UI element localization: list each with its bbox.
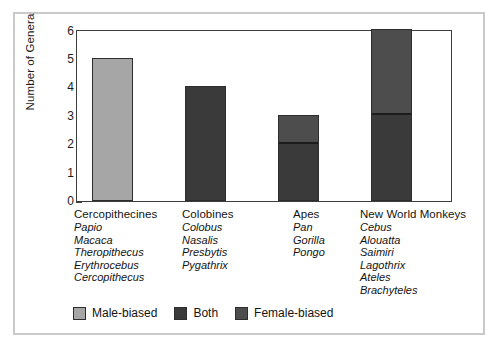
legend-swatch-male-biased bbox=[73, 307, 86, 320]
bar-apes[interactable] bbox=[278, 115, 319, 201]
bar-colobines[interactable] bbox=[185, 86, 226, 201]
bar-new-world-monkeys[interactable] bbox=[371, 29, 412, 201]
bar-segment-female-biased bbox=[279, 115, 318, 143]
genus-item: Pongo bbox=[293, 246, 325, 259]
genus-item: Colobus bbox=[182, 221, 234, 234]
genus-item: Cebus bbox=[360, 221, 466, 234]
legend: Male-biased Both Female-biased bbox=[73, 306, 350, 320]
bar-segment-divider bbox=[372, 113, 411, 115]
genus-item: Gorilla bbox=[293, 234, 325, 247]
y-tick-mark bbox=[76, 202, 82, 203]
bar-segment-female-biased bbox=[372, 29, 411, 114]
category-group-colobines: Colobines Colobus Nasalis Presbytis Pyga… bbox=[182, 208, 234, 271]
genus-item: Pan bbox=[293, 221, 325, 234]
y-tick-label: 0 bbox=[34, 194, 74, 208]
legend-swatch-female-biased bbox=[235, 307, 248, 320]
bar-segment-both bbox=[372, 114, 411, 200]
legend-item-female-biased[interactable]: Female-biased bbox=[235, 306, 333, 320]
legend-item-male-biased[interactable]: Male-biased bbox=[73, 306, 157, 320]
y-tick-label: 5 bbox=[34, 52, 74, 66]
genus-item: Cercopithecus bbox=[74, 271, 157, 284]
genus-item: Saimiri bbox=[360, 246, 466, 259]
genus-item: Erythrocebus bbox=[74, 259, 157, 272]
genus-item: Ateles bbox=[360, 271, 466, 284]
genus-item: Papio bbox=[74, 221, 157, 234]
legend-item-both[interactable]: Both bbox=[174, 306, 218, 320]
y-tick-label: 1 bbox=[34, 166, 74, 180]
genus-item: Theropithecus bbox=[74, 246, 157, 259]
category-group-apes: Apes Pan Gorilla Pongo bbox=[293, 208, 325, 259]
legend-label: Male-biased bbox=[92, 306, 157, 320]
bar-segment-male-biased bbox=[93, 59, 132, 200]
genus-item: Alouatta bbox=[360, 234, 466, 247]
y-tick-label: 6 bbox=[34, 24, 74, 38]
genus-item: Macaca bbox=[74, 234, 157, 247]
plot-area bbox=[76, 30, 452, 202]
category-group-new-world-monkeys: New World Monkeys Cebus Alouatta Saimiri… bbox=[360, 208, 466, 297]
category-label: Apes bbox=[293, 208, 325, 220]
bar-segment-divider bbox=[279, 142, 318, 144]
figure: Number of Genera 6 5 4 3 2 1 0 bbox=[0, 0, 500, 350]
genus-item: Brachyteles bbox=[360, 284, 466, 297]
category-label: New World Monkeys bbox=[360, 208, 466, 220]
legend-label: Both bbox=[193, 306, 218, 320]
bar-cercopithecines[interactable] bbox=[92, 58, 133, 201]
y-tick-label: 3 bbox=[34, 109, 74, 123]
legend-swatch-both bbox=[174, 307, 187, 320]
bar-segment-both bbox=[279, 143, 318, 200]
genus-item: Presbytis bbox=[182, 246, 234, 259]
y-tick-label: 4 bbox=[34, 80, 74, 94]
category-label: Colobines bbox=[182, 208, 234, 220]
y-tick-label: 2 bbox=[34, 137, 74, 151]
genus-item: Pygathrix bbox=[182, 259, 234, 272]
genus-item: Lagothrix bbox=[360, 259, 466, 272]
category-group-cercopithecines: Cercopithecines Papio Macaca Theropithec… bbox=[74, 208, 157, 284]
genus-item: Nasalis bbox=[182, 234, 234, 247]
legend-label: Female-biased bbox=[254, 306, 333, 320]
bar-segment-both bbox=[186, 87, 225, 200]
category-label: Cercopithecines bbox=[74, 208, 157, 220]
